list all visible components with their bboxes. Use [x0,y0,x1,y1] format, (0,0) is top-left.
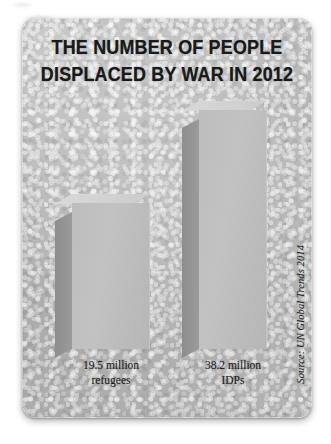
bar-chart-plot-area: 19.5 million refugees 38.2 million IDPs [22,18,312,418]
bar-refugees-side-face [55,212,72,358]
infographic-card: THE NUMBER OF PEOPLE DISPLACED BY WAR IN… [22,18,312,418]
bar-idps-front-face [199,110,267,349]
bar-refugees-front-face [72,203,150,349]
bar-label-idps: 38.2 million IDPs [172,358,294,388]
bar-idps [199,110,267,349]
bar-idps-side-face [182,119,199,358]
source-credit: Source: UN Global Trends 2014 [295,245,306,384]
bar-label-refugees: 19.5 million refugees [50,358,172,388]
bar-refugees [72,203,150,349]
